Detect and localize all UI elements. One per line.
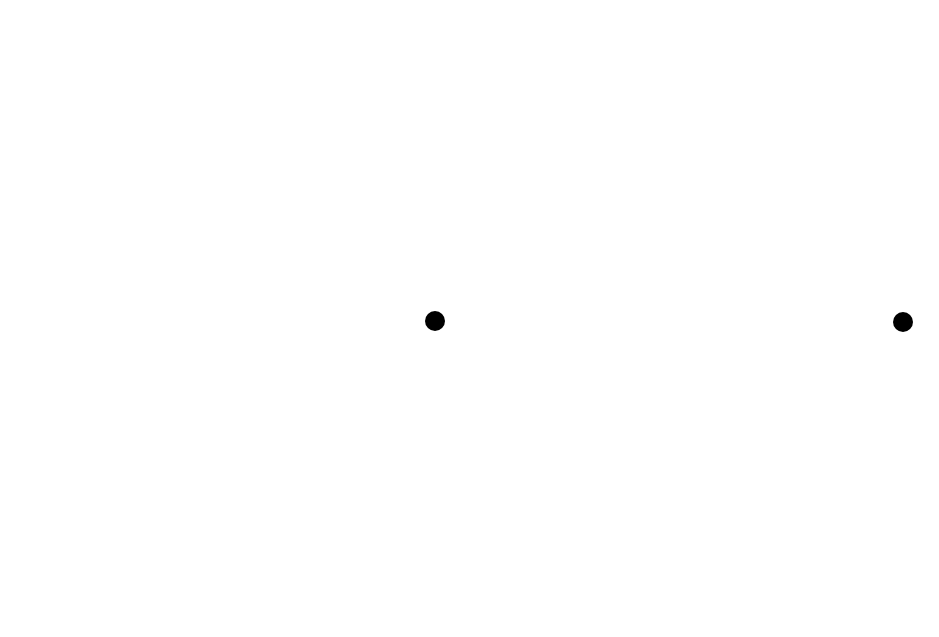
- blank-canvas: [0, 0, 939, 637]
- left-dot: [425, 311, 445, 331]
- right-dot: [893, 312, 913, 332]
